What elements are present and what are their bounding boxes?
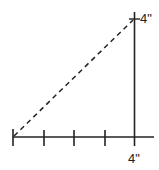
triangle-diagram: 4" 4" ···: [0, 0, 159, 170]
horizontal-length-label: 4": [128, 151, 140, 166]
top-partial-label: ···: [113, 0, 122, 3]
vertical-length-label: 4": [140, 11, 152, 26]
hypotenuse-dashed: [14, 20, 133, 136]
